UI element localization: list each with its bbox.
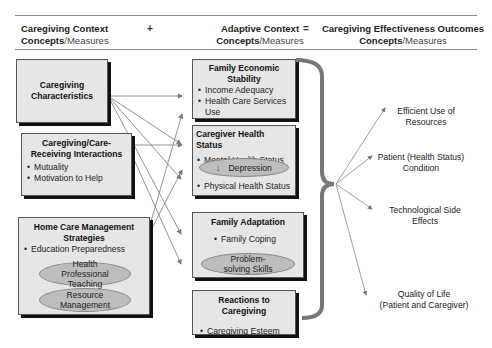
oval-depression: ↓ Depression: [199, 158, 289, 177]
box-family-economic-stability: Family Economic Stability Income Adequac…: [192, 59, 296, 119]
list-item: Physical Health Status: [196, 181, 290, 192]
box-caregiver-health-status: Caregiver Health Status Mental Health St…: [192, 125, 296, 196]
box-title: Home Care Management Strategies: [23, 222, 145, 244]
list-item: Family Coping: [213, 234, 299, 245]
outcome-patient-condition: Patient (Health Status)Condition: [365, 152, 477, 174]
list-item: Motivation to Help: [26, 173, 127, 184]
box-home-care-management: Home Care Management Strategies Educatio…: [18, 217, 150, 315]
outcome-technological-side-effects: Technological SideEffects: [375, 205, 475, 227]
down-arrow-icon: ↓: [216, 163, 220, 173]
oval-health-professional-teaching: Health Professional Teaching: [39, 262, 131, 286]
box-title: Family Economic Stability: [197, 63, 291, 85]
box-title: Family Adaptation: [197, 217, 299, 228]
box-caregiving-characteristics: Caregiving Characteristics: [16, 59, 108, 123]
list-item: Income Adequacy: [197, 85, 291, 96]
list-item: Health Care Services Use: [197, 96, 291, 118]
list-item: Education Preparedness: [23, 244, 145, 255]
bracket: [296, 60, 334, 318]
box-title: Reactions to Caregiving: [195, 295, 293, 317]
list-item: Mutuality: [26, 162, 127, 173]
box-reactions-to-caregiving: Reactions to Caregiving Caregiving Estee…: [192, 290, 296, 335]
box-family-adaptation: Family Adaptation Family Coping Problem-…: [192, 212, 304, 278]
oval-resource-management: Resource Management: [39, 288, 131, 312]
box-title: Caregiving/Care-Receiving Interactions: [26, 138, 127, 160]
outcome-efficient-use-of-resources: Efficient Use ofResources: [376, 106, 476, 128]
box-title: Caregiver Health Status: [196, 129, 292, 151]
box-caregiving-interactions: Caregiving/Care-Receiving Interactions M…: [21, 133, 132, 196]
list-item: Caregiving Esteem: [199, 326, 293, 337]
outcome-quality-of-life: Quality of Life(Patient and Caregiver): [368, 289, 480, 311]
box-title: Caregiving Characteristics: [17, 80, 107, 102]
oval-problem-solving-skills: Problem-solving Skills: [201, 253, 295, 275]
